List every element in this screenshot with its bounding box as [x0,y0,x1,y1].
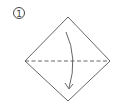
origami-fold-diagram [0,0,120,107]
paper-square-outline [25,17,110,101]
arrow-head-icon [65,83,73,89]
fold-arrow-icon [66,32,73,88]
